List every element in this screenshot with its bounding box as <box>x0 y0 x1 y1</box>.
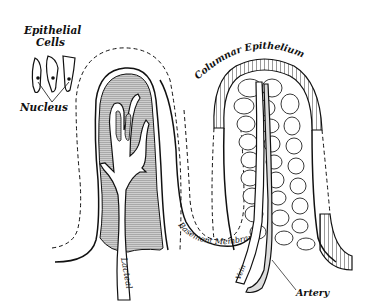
capillary-network <box>234 79 315 250</box>
nucleus-dot-2 <box>51 76 55 80</box>
nucleus-dot-3 <box>67 77 71 81</box>
nucleus-dot-1 <box>36 76 40 80</box>
svg-text:Basement Membrane: Basement Membrane <box>176 220 259 246</box>
label-cells: Cells <box>36 36 65 48</box>
epithelial-cells <box>32 56 75 102</box>
label-basement-membrane: Basement Membrane <box>176 220 259 246</box>
label-nucleus: Nucleus <box>19 101 68 113</box>
label-epithelial: Epithelial <box>23 24 81 36</box>
villi-illustration: Epithelial Cells Nucleus Lacteal Basemen… <box>0 0 368 307</box>
label-artery: Artery <box>295 287 331 298</box>
